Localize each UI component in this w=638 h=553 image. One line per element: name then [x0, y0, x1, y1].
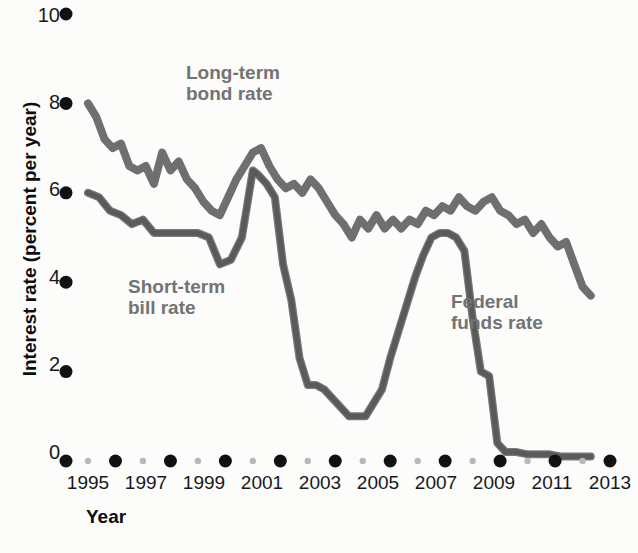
axis-tick-dots — [0, 0, 638, 553]
x-tick-dot-2003 — [329, 455, 342, 468]
x-tick-dot-1996 — [140, 458, 146, 464]
x-tick-dot-2006 — [414, 458, 420, 464]
y-tick-label-0: 0 — [26, 441, 60, 464]
x-tick-label-1999: 1999 — [173, 472, 235, 494]
x-tick-label-2013: 2013 — [579, 472, 638, 494]
x-tick-dot-2013 — [604, 455, 617, 468]
x-tick-dot-2007 — [439, 455, 452, 468]
y-axis-title: Interest rate (percent per year) — [19, 59, 41, 419]
x-tick-label-2001: 2001 — [231, 472, 293, 494]
interest-rate-chart: 10 8 6 4 2 0 1995 1997 1999 2001 2003 20… — [0, 0, 638, 553]
x-tick-dot-1994 — [85, 458, 91, 464]
x-tick-dot-2005 — [384, 455, 397, 468]
x-tick-dot-2000 — [250, 458, 256, 464]
x-tick-dot-2010 — [524, 458, 530, 464]
y-tick-dot-8 — [60, 97, 73, 110]
series-label-long-term-bond-rate: Long-term bond rate — [186, 62, 280, 105]
x-tick-label-2005: 2005 — [347, 472, 409, 494]
x-tick-dot-2009 — [494, 455, 507, 468]
x-tick-dot-2008 — [469, 458, 475, 464]
series-label-federal-funds-rate: Federal funds rate — [451, 291, 543, 334]
x-tick-label-2007: 2007 — [405, 472, 467, 494]
x-tick-dot-1999 — [219, 455, 232, 468]
y-tick-dot-2 — [60, 365, 73, 378]
x-axis-title: Year — [86, 506, 126, 528]
x-tick-label-2009: 2009 — [463, 472, 525, 494]
x-tick-dot-2012 — [579, 458, 585, 464]
y-tick-dot-10 — [60, 8, 73, 21]
x-tick-dot-1995 — [109, 455, 122, 468]
x-tick-label-1997: 1997 — [115, 472, 177, 494]
y-tick-dot-0 — [60, 455, 73, 468]
x-tick-dot-1997 — [164, 455, 177, 468]
y-tick-label-10: 10 — [26, 4, 60, 27]
x-tick-label-1995: 1995 — [57, 472, 119, 494]
x-tick-dot-2001 — [274, 455, 287, 468]
x-tick-dot-2002 — [305, 458, 311, 464]
y-tick-dot-6 — [60, 186, 73, 199]
x-tick-dot-1998 — [195, 458, 201, 464]
x-tick-dot-2004 — [360, 458, 366, 464]
series-label-short-term-bill-rate: Short-term bill rate — [128, 276, 225, 319]
y-tick-dot-4 — [60, 276, 73, 289]
x-tick-dot-2011 — [549, 455, 562, 468]
x-tick-label-2003: 2003 — [289, 472, 351, 494]
x-tick-label-2011: 2011 — [521, 472, 583, 494]
